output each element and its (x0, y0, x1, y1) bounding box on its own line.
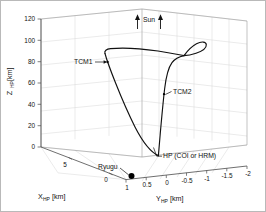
ryugu-marker (129, 173, 135, 179)
z-tick-label: 0 (31, 143, 35, 150)
three-d-trajectory-plot: 0 20 40 60 80 100 120 5 0 1 0.5 0 -0.5 -… (1, 1, 266, 212)
y-tick-label: 1 (125, 184, 129, 191)
z-tick-label: 60 (28, 79, 36, 86)
grid-right-wall (142, 9, 247, 143)
y-tick-label: -0.5 (181, 177, 192, 184)
z-axis-title: Z HP [km] (5, 67, 15, 95)
z-tick-label: 80 (28, 58, 36, 65)
tcm1-annotation: TCM1 (74, 58, 107, 65)
ryugu-label: Ryugu (98, 163, 118, 171)
hp-label: HP (COI or HRM) (163, 152, 216, 160)
waypoint-markers (106, 61, 165, 96)
z-axis-title-unit: [km] (5, 67, 14, 81)
axis-z (38, 19, 41, 147)
x-axis-title-sub: HP (43, 196, 51, 202)
x-axis-title: X HP [km] (38, 192, 66, 202)
y-tick-label: -1.5 (221, 172, 232, 179)
y-axis-title: Y HP [km] (156, 194, 184, 204)
z-tick-labels: 0 20 40 60 80 100 120 (24, 15, 35, 150)
x-tick-label: 0 (104, 176, 108, 183)
sun-arrow-left (135, 14, 140, 29)
y-tick-labels: 1 0.5 0 -0.5 -1 -1.5 -2 (125, 170, 251, 191)
y-axis-title-unit: [km] (170, 194, 184, 203)
y-axis-title-sub: HP (161, 198, 169, 204)
plot-box-edges (41, 9, 247, 157)
y-tick-label: -2 (245, 170, 251, 177)
y-tick-label: -1 (204, 175, 210, 182)
trajectory-curve (105, 42, 207, 156)
figure-panel: 0 20 40 60 80 100 120 5 0 1 0.5 0 -0.5 -… (0, 0, 266, 212)
z-tick-label: 20 (28, 122, 36, 129)
y-tick-label: 0 (165, 179, 169, 186)
tcm2-annotation: TCM2 (165, 88, 191, 95)
y-tick-label: 0.5 (143, 181, 152, 188)
sun-label: Sun (143, 16, 155, 23)
tcm2-label: TCM2 (173, 88, 192, 95)
tcm1-label: TCM1 (74, 58, 93, 65)
grid-left-wall (41, 9, 142, 139)
grid-floor (41, 145, 247, 181)
x-tick-label: 5 (63, 161, 67, 168)
z-tick-label: 100 (24, 37, 35, 44)
z-tick-label: 120 (24, 15, 35, 22)
ryugu-annotation: Ryugu (98, 163, 129, 176)
tcm2-marker (163, 93, 165, 95)
x-axis-title-unit: [km] (52, 192, 66, 201)
z-axis-title-main: Z (5, 90, 14, 95)
z-tick-label: 40 (28, 101, 36, 108)
